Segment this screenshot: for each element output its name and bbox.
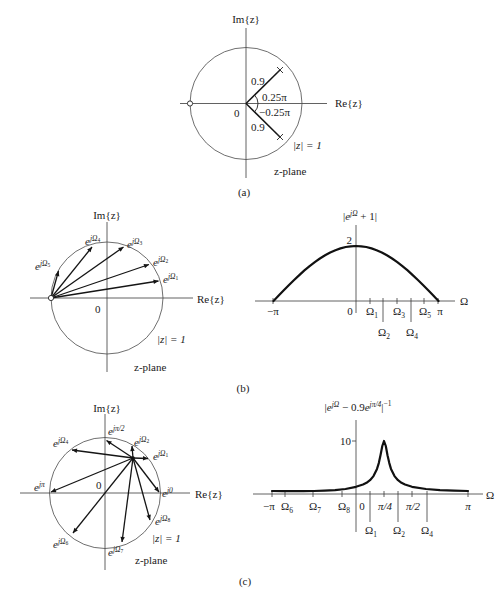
x-tick-label: Ω7: [309, 500, 321, 515]
tick-main: Ω: [393, 305, 401, 317]
y-tick-label: 2: [347, 234, 353, 246]
vector-label-omega1: ejΩ1: [153, 449, 168, 463]
title-rest: + 1|: [358, 210, 377, 222]
tick-main: Ω: [338, 500, 346, 512]
vector-omega2-arrow: [132, 446, 133, 458]
label-exponent-subscript: 3: [139, 240, 142, 246]
label-exponent-subscript: 4: [97, 237, 100, 243]
vector-omega2-arrow: [51, 265, 149, 299]
label-exponent: j0: [166, 486, 173, 495]
caption-b: (b): [237, 382, 250, 395]
vector-label-pi: ejπ: [34, 480, 45, 494]
y-tick-label: 10: [340, 435, 352, 447]
pole-x-icon: [277, 134, 283, 140]
tick-main: Ω: [365, 524, 373, 536]
origin-label: 0: [234, 107, 240, 119]
tick-sub: 5: [427, 311, 431, 320]
plot-title: |ejΩ + 1|: [343, 209, 377, 223]
vector-label-zero-freq: ej0: [162, 486, 173, 500]
tick-sub: 4: [429, 530, 433, 539]
x-tick-label: π/2: [406, 500, 421, 512]
vector-pi-arrow: [51, 458, 133, 492]
pole-x-icon: [277, 67, 283, 73]
label-exponent-subscript: 8: [167, 517, 170, 523]
x-tick-label: Ω1: [365, 524, 377, 539]
panel-b-plot: |ejΩ + 1| 2 Ω −π 0 Ω1 Ω3 Ω5 π Ω2 Ω4: [255, 209, 468, 341]
vector-label-omega6: ejΩ6: [53, 537, 68, 551]
pole-radius-lower: 0.9: [251, 121, 265, 133]
tick-main: Ω: [366, 305, 374, 317]
imag-axis-label: Im{z}: [93, 402, 121, 414]
label-exponent: jπ/2: [112, 424, 125, 433]
unit-circle-label: |z| = 1: [293, 139, 322, 151]
x-tick-label: Ω1: [366, 305, 378, 320]
title-exponent: jπ/4: [369, 400, 382, 409]
x-tick-label: π: [437, 305, 443, 317]
vector-label-omega3: ejΩ3: [127, 237, 142, 251]
pole-dot-icon: [131, 456, 135, 460]
label-exponent-subscript: 6: [65, 540, 68, 546]
label-exponent-subscript: 2: [165, 258, 168, 264]
x-tick-label: 0: [347, 305, 353, 317]
tick-sub: 6: [289, 506, 293, 515]
panel-c-plot: |ejΩ − 0.9ejπ/4|−1 10 Ω −π Ω6 Ω7 Ω8 0 π/…: [253, 399, 494, 539]
plane-label: z-plane: [134, 361, 166, 373]
tick-sub: 1: [374, 311, 378, 320]
tick-sub: 1: [373, 530, 377, 539]
vector-label-omega5: ejΩ5: [35, 259, 50, 273]
tick-main: Ω: [309, 500, 317, 512]
panel-b-zplane: Im{z} Re{z} 0 |z| = 1 z-plane ejΩ1 ejΩ2 …: [30, 209, 225, 373]
pole-angle-lower: −0.25π: [259, 106, 290, 118]
x-tick-label: 0: [359, 500, 365, 512]
vector-label-omega4: ejΩ4: [53, 436, 68, 450]
label-exponent-subscript: 7: [120, 548, 123, 554]
tick-sub: 8: [346, 506, 350, 515]
x-tick-label: π: [465, 500, 471, 512]
caption-a: (a): [238, 186, 251, 199]
vector-omega3-arrow: [51, 247, 124, 298]
tick-sub: 4: [414, 332, 418, 341]
vector-label-omega2: ejΩ2: [134, 435, 149, 449]
tick-sub: 3: [401, 311, 405, 320]
vector-label-omega2: ejΩ2: [153, 255, 168, 269]
x-tick-label: −π: [263, 500, 275, 512]
title-middle: − 0.9: [339, 401, 365, 413]
vector-omega8-arrow: [133, 458, 150, 520]
x-tick-label: Ω6: [281, 500, 293, 515]
vector-label-omega4: ejΩ4: [85, 234, 100, 248]
tick-main: Ω: [419, 305, 427, 317]
pole-radius-upper: 0.9: [251, 75, 265, 87]
origin-label: 0: [96, 479, 102, 491]
vector-zero-freq-arrow: [133, 458, 159, 492]
unit-circle-label: |z| = 1: [152, 532, 181, 544]
tick-main: Ω: [281, 500, 289, 512]
tick-main: Ω: [393, 524, 401, 536]
figure: Im{z} Re{z} 0.9 0.25π −0.25π 0 0.9 |z| =…: [0, 0, 503, 601]
x-tick-label: Ω2: [393, 524, 405, 539]
unit-circle-label: |z| = 1: [157, 333, 186, 345]
tick-main: 0: [359, 500, 365, 512]
magnitude-curve: [272, 441, 468, 491]
x-tick-label: Ω5: [419, 305, 431, 320]
panel-a: Im{z} Re{z} 0.9 0.25π −0.25π 0 0.9 |z| =…: [180, 13, 363, 199]
vector-omega1-arrow: [51, 281, 159, 298]
imag-axis-label: Im{z}: [232, 13, 260, 25]
vector-label-pi-half: ejπ/2: [108, 424, 125, 438]
tick-main: π: [465, 500, 471, 512]
pole-angle-upper: 0.25π: [262, 91, 287, 103]
x-tick-label: Ω2: [378, 326, 390, 341]
x-axis-label: Ω: [460, 295, 468, 307]
vector-omega1-arrow: [133, 458, 148, 459]
label-exponent: jπ: [38, 480, 45, 489]
real-axis-label: Re{z}: [195, 488, 223, 500]
tick-main: Ω: [421, 524, 429, 536]
tick-main: 0: [347, 305, 353, 317]
x-tick-label: Ω4: [421, 524, 433, 539]
x-tick-label: Ω3: [393, 305, 405, 320]
tick-main: π: [437, 305, 443, 317]
label-exponent-subscript: 2: [146, 438, 149, 444]
x-tick-label: −π: [267, 305, 279, 317]
zero-circle-icon: [48, 295, 53, 300]
label-exponent-subscript: 5: [47, 262, 50, 268]
label-exponent-subscript: 4: [65, 439, 68, 445]
